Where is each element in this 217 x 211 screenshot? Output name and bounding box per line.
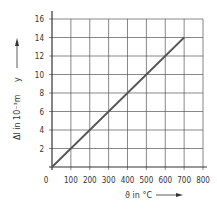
- y-tick-label: 10: [35, 71, 45, 80]
- x-tick-labels: 100200300400500600700800: [64, 176, 210, 185]
- x-tick-label: 200: [83, 176, 97, 185]
- x-tick-label: 500: [140, 176, 154, 185]
- y-tick-label: 4: [39, 126, 44, 135]
- x-tick-label: 300: [102, 176, 116, 185]
- line-chart: 100200300400500600700800 246810121416 0 …: [0, 0, 217, 211]
- x-tick-label: 100: [64, 176, 78, 185]
- series-line: [52, 38, 184, 168]
- y-axis-arrow-icon: [15, 38, 19, 68]
- y-tick-label: 2: [39, 145, 44, 154]
- x-tick-label: 400: [121, 176, 135, 185]
- origin-label: 0: [44, 176, 49, 185]
- x-axis-arrow-icon: [156, 193, 183, 197]
- x-tick-label: 800: [196, 176, 210, 185]
- y-axis-symbol: y: [13, 77, 22, 82]
- y-tick-label: 12: [35, 52, 44, 61]
- y-tick-label: 8: [39, 89, 44, 98]
- y-tick-label: 16: [35, 15, 45, 24]
- x-tick-label: 600: [158, 176, 172, 185]
- y-tick-label: 6: [39, 108, 44, 117]
- x-axis-label: ϑ in °C: [125, 191, 152, 200]
- y-tick-label: 14: [35, 34, 45, 43]
- data-series: [52, 38, 184, 168]
- x-tick-label: 700: [177, 176, 191, 185]
- y-tick-labels: 246810121416: [35, 15, 45, 154]
- y-axis-label: Δl in 10⁻³m: [13, 94, 22, 140]
